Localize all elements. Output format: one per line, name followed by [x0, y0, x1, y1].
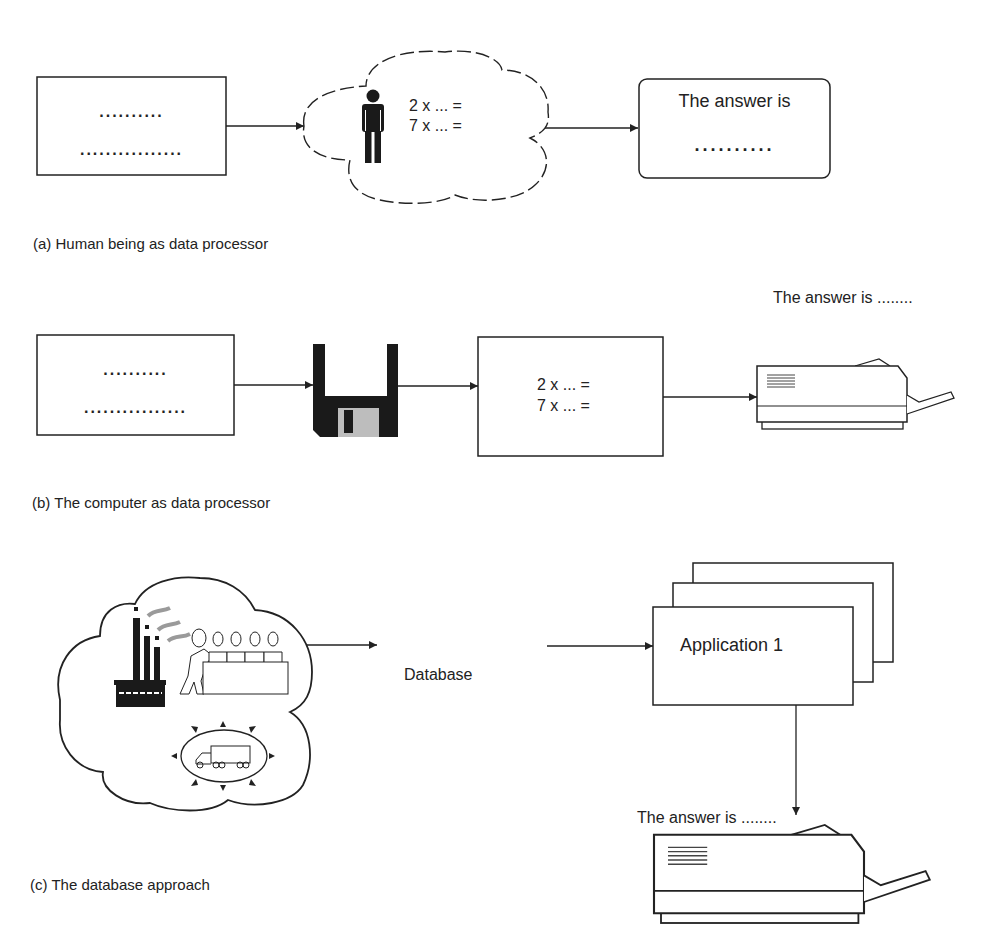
input-a-line2: ................ — [37, 141, 226, 159]
processor-line1: 2 x ... = — [537, 376, 590, 394]
floppy-disk-icon — [313, 344, 398, 437]
input-b-line2: ................ — [37, 399, 234, 417]
input-b-line1: .......... — [37, 361, 234, 379]
database-label: Database — [404, 666, 473, 684]
caption-b: (b) The computer as data processor — [32, 494, 270, 512]
input-box-a — [37, 77, 226, 175]
application-1-label: Application 1 — [680, 636, 783, 654]
printer-icon — [757, 359, 954, 429]
diagram-canvas — [0, 0, 1003, 930]
application-window-1 — [653, 607, 853, 705]
printer-c-label: The answer is ........ — [637, 809, 777, 827]
input-a-line1: .......... — [37, 103, 226, 121]
answer-box-a-dots: .......... — [639, 136, 830, 154]
caption-c: (c) The database approach — [30, 876, 210, 894]
processor-line2: 7 x ... = — [537, 397, 590, 415]
panel-c — [58, 563, 930, 923]
answer-box-a-title: The answer is — [639, 92, 830, 110]
input-box-b — [37, 335, 234, 435]
printer-icon — [654, 825, 930, 923]
cloud-a-line2: 7 x ... = — [409, 117, 462, 135]
caption-a: (a) Human being as data processor — [33, 235, 268, 253]
people-at-table-icon — [180, 629, 288, 694]
printer-b-label: The answer is ........ — [773, 289, 913, 307]
panel-b — [37, 335, 954, 456]
cloud-a-line1: 2 x ... = — [409, 97, 462, 115]
